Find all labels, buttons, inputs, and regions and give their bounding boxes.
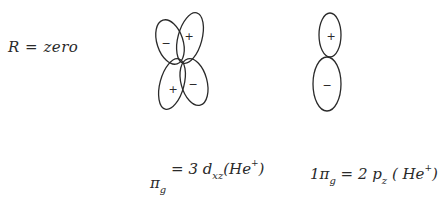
sign-p-bottom: −	[322, 79, 331, 92]
p-orbital-z	[313, 13, 341, 111]
sign-bottom-right: −	[188, 78, 197, 91]
sign-bottom-left: +	[168, 83, 177, 96]
sign-top-right: +	[184, 30, 193, 43]
d-orbital-xz	[151, 10, 213, 112]
pi-g-label: πg = 3 dxz(He+)	[150, 160, 264, 178]
sign-p-top: +	[326, 30, 335, 43]
one-pi-g-label: 1πg = 2 pz ( He+)	[310, 165, 438, 183]
sign-top-left: −	[161, 37, 170, 50]
